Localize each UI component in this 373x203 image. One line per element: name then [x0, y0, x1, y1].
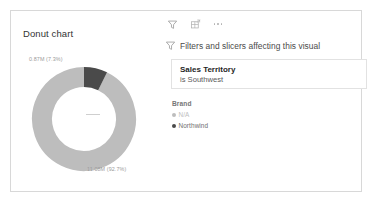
- data-label-na: 0.87M (7.3%): [29, 56, 63, 62]
- donut-chart-pane: Donut chart 0.87M (7.3%) 11.08M (92.7%): [11, 11, 159, 191]
- visual-card: Donut chart 0.87M (7.3%) 11.08M (92.7%): [10, 10, 362, 192]
- filter-funnel-icon: [165, 40, 176, 51]
- filters-panel-title: Filters and slicers affecting this visua…: [180, 41, 320, 51]
- legend-label-na: N/A: [179, 111, 190, 118]
- legend-item-na[interactable]: N/A: [172, 111, 208, 118]
- legend-item-northwind[interactable]: Northwind: [172, 122, 208, 129]
- page-title: Donut chart: [23, 28, 73, 39]
- filter-card-sales-territory[interactable]: Sales Territory is Southwest: [171, 59, 367, 89]
- leader-line-na: [86, 114, 100, 115]
- filters-panel: Filters and slicers affecting this visua…: [159, 11, 361, 191]
- focus-mode-glyph: [190, 19, 201, 30]
- legend-dot-na: [172, 113, 176, 117]
- donut-chart-svg: [28, 63, 140, 175]
- legend-title: Brand: [172, 100, 208, 107]
- focus-mode-icon[interactable]: [188, 17, 202, 31]
- filter-funnel-glyph: [167, 19, 178, 30]
- legend-dot-northwind: [172, 124, 176, 128]
- more-options-icon[interactable]: [211, 17, 225, 31]
- filter-funnel-icon[interactable]: [165, 17, 179, 31]
- legend: Brand N/A Northwind: [172, 100, 208, 133]
- filter-field-condition: is Southwest: [180, 75, 358, 85]
- data-label-northwind: 11.08M (92.7%): [87, 166, 126, 172]
- legend-label-northwind: Northwind: [179, 122, 209, 129]
- more-options-glyph: [214, 23, 223, 25]
- filters-panel-header: Filters and slicers affecting this visua…: [165, 40, 320, 51]
- donut-chart[interactable]: [28, 63, 140, 175]
- visual-toolbar: [165, 17, 225, 31]
- filter-field-name: Sales Territory: [180, 64, 358, 75]
